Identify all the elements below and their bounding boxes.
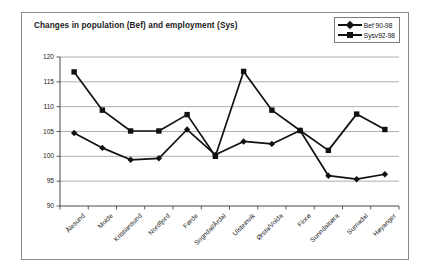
data-point-square bbox=[269, 107, 274, 112]
y-tick-label: 90 bbox=[36, 202, 54, 209]
data-point-square bbox=[71, 69, 76, 74]
gridlines bbox=[60, 57, 399, 181]
data-point-square bbox=[100, 107, 105, 112]
y-tick-label: 105 bbox=[36, 128, 54, 135]
data-point-square bbox=[297, 128, 302, 133]
plot-area: 9095100105110115120 ÅlesundMoldeKristian… bbox=[22, 13, 408, 259]
chart-container: Changes in population (Bef) and employme… bbox=[21, 12, 409, 260]
data-point-diamond bbox=[71, 130, 77, 136]
data-point-square bbox=[156, 128, 161, 133]
data-point-diamond bbox=[269, 141, 275, 147]
data-point-diamond bbox=[99, 145, 105, 151]
data-point-square bbox=[354, 111, 359, 116]
data-point-square bbox=[326, 148, 331, 153]
data-point-square bbox=[128, 128, 133, 133]
data-point-diamond bbox=[127, 157, 133, 163]
x-tick-marks bbox=[60, 206, 399, 210]
y-tick-label: 100 bbox=[36, 152, 54, 159]
y-tick-label: 115 bbox=[36, 78, 54, 85]
y-tick-label: 110 bbox=[36, 103, 54, 110]
series-layer bbox=[71, 69, 388, 183]
data-point-square bbox=[213, 154, 218, 159]
data-point-square bbox=[184, 112, 189, 117]
data-point-square bbox=[382, 127, 387, 132]
series-line bbox=[74, 71, 385, 156]
data-point-square bbox=[241, 69, 246, 74]
y-tick-label: 95 bbox=[36, 177, 54, 184]
y-tick-label: 120 bbox=[36, 53, 54, 60]
data-point-diamond bbox=[240, 138, 246, 144]
data-point-diamond bbox=[382, 171, 388, 177]
